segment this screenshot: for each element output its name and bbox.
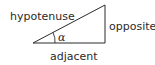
angle-arc bbox=[53, 33, 55, 44]
right-triangle-diagram: α hypotenuse opposite adjacent bbox=[0, 0, 155, 65]
hypotenuse-label: hypotenuse bbox=[10, 10, 75, 23]
adjacent-label: adjacent bbox=[50, 50, 98, 63]
opposite-label: opposite bbox=[109, 20, 155, 33]
angle-label: α bbox=[58, 31, 66, 44]
